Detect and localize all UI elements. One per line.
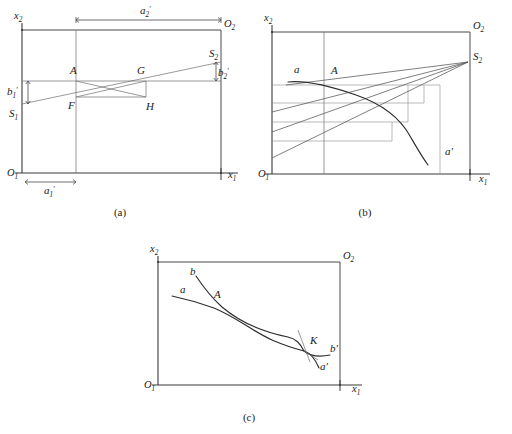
panel-a-corner-label: O2 bbox=[224, 18, 236, 32]
panel-c-point-A: A bbox=[213, 288, 221, 300]
panel-a-corner-dot bbox=[220, 172, 222, 174]
panel-b-curve-a bbox=[288, 82, 428, 165]
panel-b-x-axis-label: x1 bbox=[478, 173, 487, 187]
panel-b-origin-dot bbox=[271, 31, 273, 33]
panel-c-curve-a bbox=[172, 296, 319, 368]
panel-a-point-S1: S1 bbox=[9, 107, 18, 122]
panel-a-y-axis-label: x2 bbox=[13, 10, 23, 24]
panel-a-line-s1-s2 bbox=[22, 62, 221, 104]
panel-b-curve-a-end-label: a' bbox=[445, 145, 454, 157]
panel-c-corner-dot bbox=[339, 384, 341, 386]
panel-b-ray-4 bbox=[286, 62, 468, 85]
panel-b: x2 x1 O1 O2 a A a' S2 (b) bbox=[258, 12, 490, 219]
panel-b-y-axis-label: x2 bbox=[263, 12, 273, 26]
panel-a-dim-a1-label: a1' bbox=[44, 184, 55, 199]
panel-b-caption: (b) bbox=[359, 206, 372, 219]
panel-c-curve-b-start-label: b bbox=[190, 265, 196, 277]
panel-c-point-K: K bbox=[309, 334, 318, 346]
panel-a-caption: (a) bbox=[114, 206, 127, 219]
panel-c-curve-a-start-label: a bbox=[180, 283, 186, 295]
panel-b-point-S2: S2 bbox=[473, 50, 483, 65]
panel-a-origin-label: O1 bbox=[7, 167, 18, 181]
panel-b-corner-label: O2 bbox=[473, 20, 485, 34]
panel-c-tangent-K bbox=[298, 330, 310, 362]
panel-b-ray-3 bbox=[272, 62, 468, 158]
panel-c-origin-label: O1 bbox=[144, 379, 155, 393]
panel-c-origin-dot bbox=[157, 261, 159, 263]
panel-a: x2 x1 O1 O2 A G F H S1 S2 a2' a1' b1' b2… bbox=[7, 4, 238, 219]
panel-a-point-A: A bbox=[69, 64, 77, 76]
panel-b-point-A: A bbox=[330, 64, 338, 76]
panel-c-curve-b-end-label: b' bbox=[330, 342, 339, 354]
panel-c-corner-label: O2 bbox=[343, 250, 355, 264]
figure-canvas: x2 x1 O1 O2 A G F H S1 S2 a2' a1' b1' b2… bbox=[0, 0, 512, 434]
panel-a-frame bbox=[22, 30, 221, 173]
panel-b-ray-2 bbox=[272, 62, 468, 132]
panel-a-dim-b1-label: b1' bbox=[7, 85, 18, 100]
panel-a-point-S2: S2 bbox=[209, 47, 219, 62]
panel-c-caption: (c) bbox=[243, 411, 256, 424]
panel-a-origin-dot bbox=[21, 29, 23, 31]
panel-b-corner-dot bbox=[469, 173, 471, 175]
panel-a-point-G: G bbox=[137, 64, 145, 76]
panel-b-curve-a-start-label: a bbox=[294, 63, 300, 75]
panel-a-point-H: H bbox=[145, 100, 155, 112]
panel-c: x2 x1 O1 O2 a b A K b' a' (c) bbox=[144, 243, 362, 424]
panel-c-curve-a-end-label: a' bbox=[320, 360, 329, 372]
panel-a-dim-a2-label: a2' bbox=[140, 4, 151, 19]
panel-c-y-axis-label: x2 bbox=[149, 243, 159, 257]
panel-b-ray-1 bbox=[272, 62, 468, 112]
panel-c-frame bbox=[158, 262, 340, 385]
panel-a-point-F: F bbox=[67, 99, 75, 111]
panel-b-origin-label: O1 bbox=[258, 168, 269, 182]
panel-a-x-axis-label: x1 bbox=[227, 169, 236, 183]
panel-a-dim-b2-label: b2' bbox=[218, 66, 229, 81]
